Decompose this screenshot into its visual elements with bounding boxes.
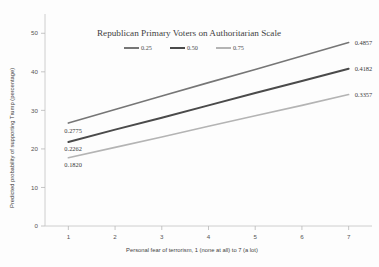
y-axis-ticks: 01020304050 (31, 29, 45, 229)
legend-label-0.50: 0.50 (187, 44, 198, 51)
legend-label-0.75: 0.75 (233, 44, 244, 51)
start-label-0.50: 0.2262 (64, 145, 82, 152)
start-label-0.25: 0.2775 (64, 127, 82, 134)
x-tick-label: 4 (207, 233, 211, 240)
y-tick-label: 10 (31, 184, 38, 191)
chart-title: Republican Primary Voters on Authoritari… (97, 28, 281, 38)
end-label-0.50: 0.4182 (355, 65, 373, 72)
series-line-0.50 (68, 69, 348, 142)
x-tick-label: 7 (347, 233, 351, 240)
y-tick-label: 30 (31, 107, 38, 114)
x-tick-label: 3 (160, 233, 164, 240)
x-axis-ticks: 1234567 (67, 226, 351, 240)
y-tick-label: 40 (31, 68, 38, 75)
y-tick-label: 50 (31, 29, 38, 36)
start-label-0.75: 0.1820 (64, 161, 82, 168)
x-tick-label: 1 (67, 233, 71, 240)
x-tick-label: 6 (300, 233, 304, 240)
end-label-0.25: 0.4857 (355, 39, 373, 46)
y-tick-label: 20 (31, 145, 38, 152)
end-label-0.75: 0.3357 (355, 91, 373, 98)
legend-label-0.25: 0.25 (141, 44, 152, 51)
series-line-0.75 (68, 95, 348, 158)
chart-series-group (68, 43, 348, 158)
series-line-0.25 (68, 43, 348, 124)
x-tick-label: 2 (113, 233, 117, 240)
chart-canvas: Republican Primary Voters on Authoritari… (0, 0, 379, 267)
chart-legend: 0.250.500.75 (124, 44, 244, 51)
y-tick-label: 0 (35, 222, 39, 229)
x-axis-title: Personal fear of terrorism, 1 (none at a… (126, 247, 258, 253)
chart-figure: Republican Primary Voters on Authoritari… (0, 0, 379, 267)
y-axis-title: Predicted probability of supporting Trum… (9, 68, 15, 208)
x-tick-label: 5 (253, 233, 257, 240)
